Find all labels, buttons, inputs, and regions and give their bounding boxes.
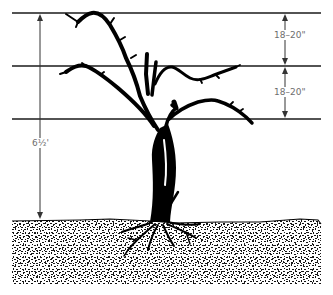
middle-spacing-label: 18–20" xyxy=(273,87,307,97)
total-height-arrow xyxy=(37,14,43,219)
total-height-label: 6½' xyxy=(31,138,50,148)
soil xyxy=(12,219,321,284)
top-spacing-label: 18–20" xyxy=(273,30,307,40)
vine-trunk xyxy=(150,124,176,222)
trellis-diagram xyxy=(0,0,333,295)
trellis-wires xyxy=(12,13,321,119)
